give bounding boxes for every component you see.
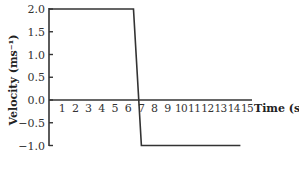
y-tick-label: 2.0 [28,3,46,16]
y-tick-label: −1.0 [18,140,45,153]
x-tick-label: 4 [98,102,105,115]
velocity-line [49,9,240,146]
y-tick-label: 0.0 [28,94,46,107]
x-tick-label: 5 [112,102,119,115]
x-tick-label: 13 [215,102,227,114]
y-tick-label: 1.5 [28,26,46,39]
x-tick-label: 14 [228,102,241,114]
y-axis-label: Velocity (ms⁻¹) [7,34,20,126]
x-tick-label: 15 [241,102,253,114]
x-tick-label: 9 [164,102,171,115]
x-tick-label: 3 [85,102,92,115]
x-tick-label: 1 [59,102,66,115]
x-tick-label: 11 [188,102,200,114]
y-tick-label: 1.0 [28,49,46,62]
x-tick-label: 2 [72,102,79,115]
x-tick-label: 6 [125,102,132,115]
y-axis-ticks: 2.01.51.00.50.0−0.5−1.0 [18,3,53,153]
x-tick-label: 12 [201,102,213,114]
x-tick-label: 10 [175,102,187,114]
x-axis-ticks: 123456789101112131415 [59,102,253,115]
y-tick-label: −0.5 [18,117,45,130]
velocity-time-chart: 2.01.51.00.50.0−0.5−1.0 1234567891011121… [0,0,299,177]
x-tick-label: 8 [151,102,158,115]
x-axis-label: Time (s) [254,102,299,115]
y-tick-label: 0.5 [28,71,46,84]
